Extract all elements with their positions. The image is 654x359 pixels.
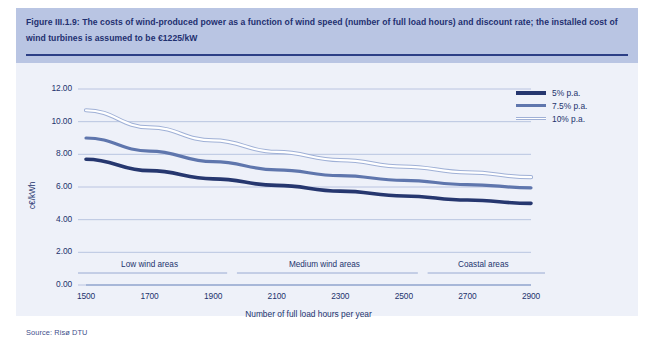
x-tick-label: 1900 bbox=[193, 291, 233, 301]
figure-caption-text: Figure III.1.9: The costs of wind-produc… bbox=[26, 15, 628, 46]
legend-item-75pct: 7.5% p.a. bbox=[516, 99, 626, 112]
x-axis-title: Number of full load hours per year bbox=[159, 309, 459, 319]
figure-caption-band: Figure III.1.9: The costs of wind-produc… bbox=[16, 8, 638, 63]
series-line-10pct-edge bbox=[86, 110, 531, 177]
y-tick-label: 4.00 bbox=[32, 214, 72, 224]
x-tick-label: 2100 bbox=[257, 291, 297, 301]
y-tick-label: 2.00 bbox=[32, 246, 72, 256]
y-tick-label: 12.00 bbox=[32, 83, 72, 93]
chart-legend: 5% p.a. 7.5% p.a. 10% p.a. bbox=[516, 86, 626, 125]
y-tick-label: 10.00 bbox=[32, 116, 72, 126]
x-tick-label: 2700 bbox=[447, 291, 487, 301]
x-tick-label: 2500 bbox=[384, 291, 424, 301]
source-note: Source: Risø DTU bbox=[26, 328, 88, 337]
y-tick-label: 8.00 bbox=[32, 148, 72, 158]
legend-swatch-5pct bbox=[516, 91, 546, 95]
legend-item-10pct: 10% p.a. bbox=[516, 112, 626, 125]
legend-swatch-10pct bbox=[516, 117, 546, 121]
figure-root: Figure III.1.9: The costs of wind-produc… bbox=[0, 0, 654, 359]
y-tick-label: 0.00 bbox=[32, 279, 72, 289]
region-label: Coastal areas bbox=[458, 260, 509, 269]
x-tick-label: 2900 bbox=[511, 291, 551, 301]
legend-label-75pct: 7.5% p.a. bbox=[552, 101, 587, 111]
legend-swatch-75pct bbox=[516, 104, 546, 107]
series-line-75pct bbox=[86, 138, 531, 188]
legend-label-10pct: 10% p.a. bbox=[552, 114, 585, 124]
legend-label-5pct: 5% p.a. bbox=[552, 88, 580, 98]
series-line-10pct bbox=[86, 110, 531, 177]
plot-stage: c€/kWh 0.002.004.006.008.0010.0012.00 15… bbox=[16, 63, 638, 316]
x-tick-label: 1500 bbox=[66, 291, 106, 301]
region-label: Medium wind areas bbox=[289, 260, 360, 269]
legend-item-5pct: 5% p.a. bbox=[516, 86, 626, 99]
region-label: Low wind areas bbox=[121, 260, 178, 269]
chart-panel: c€/kWh 0.002.004.006.008.0010.0012.00 15… bbox=[16, 63, 638, 316]
x-tick-label: 1700 bbox=[130, 291, 170, 301]
series-line-5pct bbox=[86, 159, 531, 203]
y-tick-label: 6.00 bbox=[32, 181, 72, 191]
caption-divider-rule bbox=[26, 54, 628, 56]
x-tick-label: 2300 bbox=[320, 291, 360, 301]
